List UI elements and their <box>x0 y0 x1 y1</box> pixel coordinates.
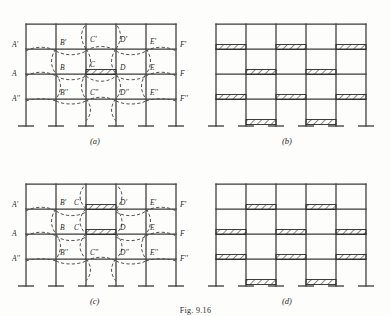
label-f-dprime: F'' <box>179 94 188 103</box>
label-b: B <box>60 63 65 72</box>
label-c: C <box>90 60 96 69</box>
panel-b <box>198 6 386 138</box>
label-c-f-prime: F' <box>179 200 187 209</box>
label-d-dprime: D'' <box>119 88 129 97</box>
label-e-dprime: E'' <box>149 88 158 97</box>
panel-a-caption: (a) <box>90 136 100 146</box>
figure-caption: Fig. 9.16 <box>0 306 391 315</box>
panel-a: A' B' C' D' E' F' A B C D E F A'' B'' C'… <box>4 6 196 138</box>
label-c-d-prime: D' <box>119 198 127 207</box>
frame-columns-d <box>216 184 366 286</box>
label-c-c-prime: C' <box>74 198 81 207</box>
panel-d <box>198 166 386 298</box>
panel-d-drawing <box>198 166 386 298</box>
label-c-f: F <box>179 229 185 238</box>
label-a: A <box>11 69 17 78</box>
label-d: D <box>119 63 126 72</box>
label-c-a-dprime: A'' <box>11 254 20 263</box>
joint-labels-a: A' B' C' D' E' F' A B C D E F A'' B'' C'… <box>11 35 188 103</box>
label-c-e-dprime: E'' <box>149 248 158 257</box>
label-e: E <box>149 63 155 72</box>
loaded-beams-c <box>86 205 116 235</box>
label-f: F <box>179 69 185 78</box>
panel-c-caption: (c) <box>90 296 99 306</box>
label-a-prime: A' <box>11 40 19 49</box>
loaded-beam-a-cd <box>86 70 116 75</box>
label-c-b-dprime: B'' <box>60 248 68 257</box>
label-e-prime: E' <box>149 37 157 46</box>
frame-beams-d <box>216 184 366 259</box>
panel-b-caption: (b) <box>282 136 292 146</box>
label-c-prime: C' <box>90 35 97 44</box>
panel-a-drawing: A' B' C' D' E' F' A B C D E F A'' B'' C'… <box>4 6 196 138</box>
figure-sheet: A' B' C' D' E' F' A B C D E F A'' B'' C'… <box>0 0 391 316</box>
label-c-e: E <box>149 223 155 232</box>
panel-c-drawing: A' B' C' D' E' F' A B C D E F A'' B'' C'… <box>4 166 196 298</box>
frame-columns-b <box>216 24 366 126</box>
label-c-d-dprime: D'' <box>119 248 129 257</box>
label-c-c: C <box>74 223 80 232</box>
label-f-prime: F' <box>179 40 187 49</box>
label-c-c-dprime: C'' <box>90 248 99 257</box>
label-c-d: D <box>119 223 126 232</box>
label-c-a: A <box>11 229 17 238</box>
label-a-dprime: A'' <box>11 94 20 103</box>
loaded-beams-d <box>216 205 366 285</box>
label-c-dprime: C'' <box>90 88 99 97</box>
label-b-prime: B' <box>60 38 67 47</box>
panel-d-caption: (d) <box>282 296 292 306</box>
panel-b-drawing <box>198 6 386 138</box>
frame-beams-b <box>216 24 366 99</box>
loaded-beam-c-cpdp <box>86 205 116 210</box>
loaded-beam-c-cd <box>86 230 116 235</box>
label-c-a-prime: A' <box>11 200 19 209</box>
label-c-b-prime: B' <box>60 198 67 207</box>
label-c-f-dprime: F'' <box>179 254 188 263</box>
label-c-b: B <box>60 223 65 232</box>
label-d-prime: D' <box>119 35 127 44</box>
label-c-e-prime: E' <box>149 198 157 207</box>
label-b-dprime: B'' <box>60 88 68 97</box>
loaded-beams-b <box>216 45 366 125</box>
panel-c: A' B' C' D' E' F' A B C D E F A'' B'' C'… <box>4 166 196 298</box>
